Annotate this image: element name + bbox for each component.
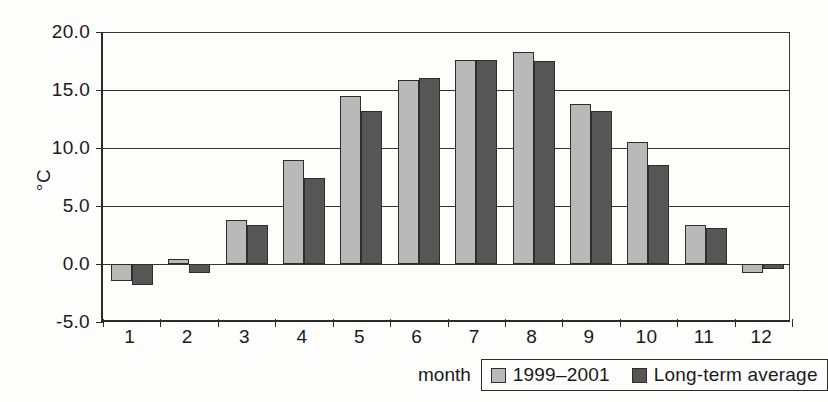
y-axis-tick-labels: 20.015.010.05.00.0-5.0 [22, 0, 98, 402]
x-axis-tick-label: 9 [584, 326, 595, 348]
bar [763, 264, 784, 269]
bar [570, 104, 591, 264]
bar-group [505, 32, 562, 320]
bar [398, 80, 419, 264]
bar-group [333, 32, 390, 320]
bar-group [562, 32, 619, 320]
y-axis-tick-label: 0.0 [63, 253, 90, 275]
bar [513, 52, 534, 264]
y-axis-tick-label: 10.0 [52, 137, 90, 159]
y-axis-tickmark [96, 264, 104, 265]
x-axis-tick-labels: 123456789101112 [101, 326, 790, 356]
x-axis-tick-label: 8 [526, 326, 537, 348]
bar [168, 259, 189, 264]
bar [361, 111, 382, 264]
bar [304, 178, 325, 264]
bar-group [677, 32, 734, 320]
x-axis-tick-label: 7 [469, 326, 480, 348]
bar [648, 165, 669, 264]
bar-group [390, 32, 447, 320]
x-axis-tick-label: 10 [636, 326, 658, 348]
bar-group [275, 32, 332, 320]
bar-group [103, 32, 160, 320]
bar [685, 225, 706, 264]
bar [627, 142, 648, 264]
y-axis-tickmark [96, 322, 104, 323]
chart-legend: 1999–2001Long-term average [481, 359, 828, 391]
bar-group [218, 32, 275, 320]
x-axis-tick-label: 2 [182, 326, 193, 348]
bar [247, 225, 268, 264]
x-axis-tickmark [792, 319, 793, 327]
y-axis-tick-label: 15.0 [52, 79, 90, 101]
bar [706, 228, 727, 264]
bar-group [620, 32, 677, 320]
legend-label: Long-term average [654, 364, 818, 386]
legend-swatch [491, 368, 506, 383]
y-axis-tick-label: 20.0 [52, 21, 90, 43]
y-axis-tickmark [96, 148, 104, 149]
bar [189, 264, 210, 273]
bars-layer [103, 32, 790, 320]
x-axis-tick-label: 12 [750, 326, 772, 348]
y-axis-tick-label: -5.0 [56, 311, 90, 333]
bar [742, 264, 763, 273]
y-axis-tick-label: 5.0 [63, 195, 90, 217]
x-axis-tick-label: 6 [411, 326, 422, 348]
legend-label: 1999–2001 [513, 364, 610, 386]
legend-item: Long-term average [632, 364, 818, 386]
legend-swatch [632, 368, 647, 383]
bar [111, 264, 132, 281]
y-axis-tickmark [96, 206, 104, 207]
legend-item: 1999–2001 [491, 364, 610, 386]
legend-row: month 1999–2001Long-term average [418, 358, 828, 392]
bar [132, 264, 153, 285]
x-axis-tick-label: 5 [354, 326, 365, 348]
bar [591, 111, 612, 264]
x-axis-title: month [418, 364, 471, 386]
bar [283, 160, 304, 264]
bar-group [735, 32, 792, 320]
bar [419, 78, 440, 264]
bar [340, 96, 361, 264]
y-axis-tickmark [96, 90, 104, 91]
y-axis-tickmark [96, 32, 104, 33]
x-axis-tick-label: 11 [694, 326, 714, 348]
plot-area [101, 32, 790, 322]
x-axis-tick-label: 1 [124, 326, 135, 348]
x-axis-tick-label: 3 [239, 326, 250, 348]
bar [476, 60, 497, 264]
temperature-bar-chart: °C 20.015.010.05.00.0-5.0 12345678910111… [0, 0, 828, 402]
bar-group [160, 32, 217, 320]
bar-group [448, 32, 505, 320]
bar [534, 61, 555, 264]
bar [455, 60, 476, 264]
bar [226, 220, 247, 264]
x-axis-tick-label: 4 [297, 326, 308, 348]
